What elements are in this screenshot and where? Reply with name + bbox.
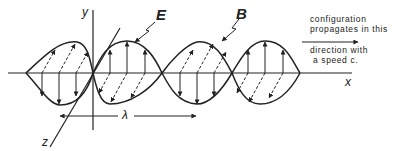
- z-axis-label: z: [42, 135, 48, 149]
- e-label-leader: [135, 22, 155, 42]
- wavelength-label: λ: [122, 108, 128, 122]
- annotation-line-1: configuration: [310, 14, 388, 24]
- annotation-line-4: a speed c.: [310, 55, 368, 65]
- annotation-line-2: propagates in this: [310, 24, 388, 34]
- magnetic-field-label: B: [236, 5, 247, 22]
- electric-field-label: E: [156, 6, 166, 23]
- y-axis-label: y: [82, 5, 88, 19]
- b-label-leader: [222, 19, 239, 41]
- x-axis-label: x: [345, 75, 351, 89]
- propagation-annotation-bottom: direction with a speed c.: [310, 45, 368, 65]
- propagation-annotation-top: configuration propagates in this: [310, 14, 388, 34]
- annotation-line-3: direction with: [310, 45, 368, 55]
